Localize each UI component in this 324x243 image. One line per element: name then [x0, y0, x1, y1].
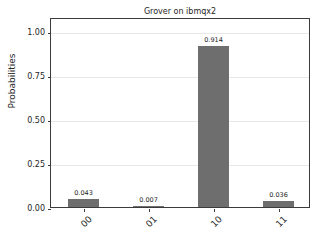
y-axis-label: Probabilities [7, 31, 17, 131]
x-tick-label: 11 [273, 214, 288, 229]
chart-title: Grover on ibmqx2 [50, 6, 310, 17]
bar-value-label: 0.914 [204, 36, 223, 44]
y-tick-label: 0.00 [1, 204, 45, 213]
bar-value-label: 0.007 [139, 196, 158, 204]
plot-area: 0.0430.0070.9140.036 [50, 18, 310, 208]
x-tick-label: 00 [78, 214, 93, 229]
x-tick-mark [149, 209, 150, 212]
bar[interactable] [133, 206, 164, 207]
x-tick-label: 10 [208, 214, 223, 229]
bar[interactable] [198, 46, 229, 207]
x-tick-mark [279, 209, 280, 212]
x-tick-mark [214, 209, 215, 212]
figure-canvas: Grover on ibmqx2 Probabilities 0.0430.00… [0, 0, 324, 243]
bar-value-label: 0.036 [269, 191, 288, 199]
bar[interactable] [263, 201, 294, 207]
y-tick-mark [48, 209, 51, 210]
bar[interactable] [68, 199, 99, 207]
bar-value-label: 0.043 [74, 189, 93, 197]
y-tick-label: 0.25 [1, 160, 45, 169]
x-tick-label: 01 [143, 214, 158, 229]
plot-inner: 0.0430.0070.9140.036 [51, 19, 309, 207]
bars-layer: 0.0430.0070.9140.036 [51, 19, 309, 207]
x-tick-mark [84, 209, 85, 212]
